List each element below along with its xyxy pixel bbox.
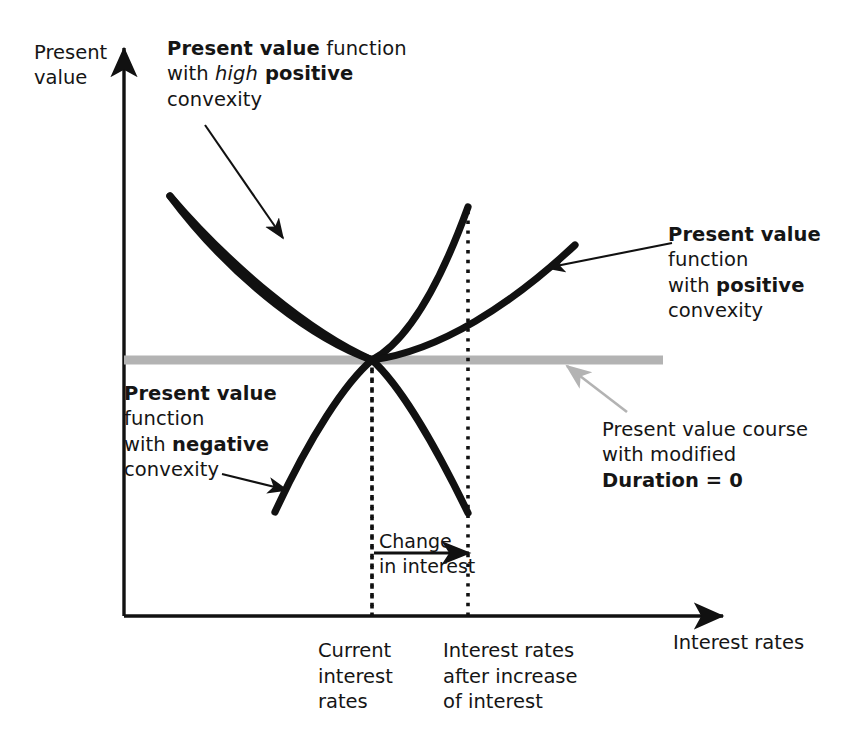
annotation-negative-convexity: Present valuefunctionwith negativeconvex… [124, 381, 277, 482]
curve-positive-convexity [170, 196, 575, 360]
annotation-duration-line2: with modified [602, 443, 736, 466]
y-axis-label-line1: Present [34, 41, 107, 64]
annotation-high-positive-line2-plain: with [167, 62, 215, 85]
change-in-interest-label-line2: in interest [379, 556, 475, 578]
annotation-negative-bold: Present value [124, 382, 277, 405]
annotation-negative-line2: function [124, 407, 204, 430]
annotation-high-positive-convexity: Present value functionwith high positive… [167, 36, 407, 112]
annotation-high-positive-line2-italic: high [215, 62, 258, 85]
annotation-positive-line4: convexity [668, 299, 763, 322]
x-tick-increased-interest-rates: Interest ratesafter increaseof interest [443, 638, 578, 715]
annotation-duration-line1: Present value course [602, 418, 808, 441]
annotation-positive-convexity: Present valuefunctionwith positiveconvex… [668, 222, 821, 323]
leader-arrow-duration-zero [567, 366, 627, 412]
annotation-duration-line3-bold: Duration = 0 [602, 469, 743, 492]
y-axis-label: Presentvalue [34, 40, 107, 91]
annotation-high-positive-bold: Present value [167, 37, 320, 60]
annotation-positive-line2: function [668, 248, 748, 271]
x-tick-current-line3: rates [318, 690, 368, 713]
annotation-duration-zero: Present value coursewith modifiedDuratio… [602, 417, 808, 493]
change-in-interest-label-line1: Change [379, 531, 452, 553]
annotation-high-positive-line3: convexity [167, 88, 262, 111]
x-axis-label: Interest rates [673, 630, 804, 655]
leader-arrow-high-positive [205, 125, 283, 238]
x-tick-current-interest-rates: Currentinterestrates [318, 638, 393, 715]
annotation-high-positive-line1-rest: function [320, 37, 407, 60]
x-tick-after-line2: after increase [443, 665, 578, 688]
annotation-negative-line3-bold: negative [172, 433, 269, 456]
annotation-negative-line4: convexity [124, 458, 219, 481]
x-tick-current-line1: Current [318, 639, 391, 662]
annotation-high-positive-line2-bold: positive [258, 62, 353, 85]
x-tick-after-line3: of interest [443, 690, 543, 713]
annotation-positive-line3-plain: with [668, 274, 716, 297]
annotation-negative-line3-plain: with [124, 433, 172, 456]
annotation-positive-bold: Present value [668, 223, 821, 246]
y-axis-label-line2: value [34, 66, 87, 89]
annotation-positive-line3-bold: positive [716, 274, 804, 297]
x-tick-current-line2: interest [318, 665, 393, 688]
x-tick-after-line1: Interest rates [443, 639, 574, 662]
